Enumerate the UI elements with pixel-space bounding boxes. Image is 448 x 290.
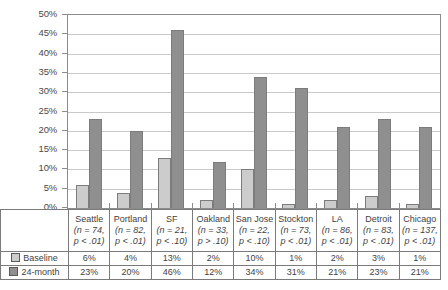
- table-cell-24month: 23%: [358, 266, 399, 280]
- bar-group: [68, 15, 109, 208]
- city-name: SF: [152, 214, 192, 225]
- y-axis-tick-label: 30%: [39, 86, 57, 96]
- table-header-cell: LA(n = 86,p < .01): [316, 210, 357, 252]
- data-table: Seattle(n = 74,p < .01)Portland(n = 82,p…: [0, 209, 441, 280]
- bar-group: [399, 15, 440, 208]
- y-axis-tick-label: 10%: [39, 163, 57, 173]
- bar-group: [192, 15, 233, 208]
- city-name: Seattle: [69, 214, 109, 225]
- bar-24-month: [89, 119, 102, 208]
- table-cell-baseline: 2%: [316, 252, 357, 266]
- legend-swatch-baseline: [11, 253, 20, 262]
- bar-baseline: [76, 185, 89, 208]
- table-header-cell: Seattle(n = 74,p < .01): [69, 210, 110, 252]
- legend-cell-24month: 24-month: [1, 266, 69, 280]
- table-header-cell: Stockton(n = 73,p < .01): [275, 210, 316, 252]
- table-corner-blank: [1, 210, 69, 252]
- legend-cell-baseline: Baseline: [1, 252, 69, 266]
- p-value: p < .10): [234, 236, 274, 247]
- bar-24-month: [213, 162, 226, 208]
- p-value: p < .01): [276, 236, 316, 247]
- city-name: Detroit: [358, 214, 398, 225]
- y-axis-tick-label: 20%: [39, 125, 57, 135]
- bar-group: [275, 15, 316, 208]
- sample-size: (n = 73,: [276, 225, 316, 236]
- table-cell-baseline: 4%: [110, 252, 151, 266]
- table-cell-24month: 23%: [69, 266, 110, 280]
- y-axis-tick-label: 15%: [39, 144, 57, 154]
- bar-group: [316, 15, 357, 208]
- bar-baseline: [158, 158, 171, 208]
- y-axis-tick-label: 45%: [39, 28, 57, 38]
- legend-label: Baseline: [23, 253, 58, 263]
- table-cell-24month: 34%: [234, 266, 275, 280]
- table-header-cell: Oakland(n = 33,p > .10): [192, 210, 233, 252]
- bar-24-month: [295, 88, 308, 208]
- table-cell-24month: 21%: [316, 266, 357, 280]
- city-name: Stockton: [276, 214, 316, 225]
- city-name: Oakland: [193, 214, 233, 225]
- table-cell-baseline: 10%: [234, 252, 275, 266]
- sample-size: (n = 137,: [400, 225, 440, 236]
- bar-24-month: [254, 77, 267, 208]
- bar-group: [109, 15, 150, 208]
- bar-groups: [68, 15, 440, 208]
- table-row-baseline: Baseline6%4%13%2%10%1%2%3%1%: [1, 252, 441, 266]
- bar-baseline: [324, 200, 337, 208]
- legend-label: 24-month: [21, 267, 59, 277]
- table-cell-baseline: 3%: [358, 252, 399, 266]
- p-value: p < .01): [69, 236, 109, 247]
- legend-swatch-month24: [9, 267, 18, 276]
- table-cell-24month: 31%: [275, 266, 316, 280]
- city-name: Portland: [110, 214, 150, 225]
- table-cell-24month: 46%: [151, 266, 192, 280]
- bar-24-month: [130, 131, 143, 208]
- city-name: San Jose: [234, 214, 274, 225]
- table-cell-baseline: 13%: [151, 252, 192, 266]
- sample-size: (n = 21,: [152, 225, 192, 236]
- table-cell-baseline: 2%: [192, 252, 233, 266]
- city-name: LA: [317, 214, 357, 225]
- table-header-cell: Chicago(n = 137,p < .01): [399, 210, 440, 252]
- table-cell-baseline: 1%: [275, 252, 316, 266]
- bar-group: [357, 15, 398, 208]
- bar-chart-figure: 50%45%40%35%30%25%20%15%10%5%0% Seattle(…: [0, 0, 448, 290]
- bar-baseline: [282, 204, 295, 208]
- y-axis-tick-label: 40%: [39, 48, 57, 58]
- bar-baseline: [200, 200, 213, 208]
- p-value: p < .01): [317, 236, 357, 247]
- p-value: p < .01): [110, 236, 150, 247]
- bar-group: [233, 15, 274, 208]
- bar-baseline: [241, 169, 254, 208]
- bar-24-month: [337, 127, 350, 208]
- table-cell-baseline: 1%: [399, 252, 440, 266]
- sample-size: (n = 74,: [69, 225, 109, 236]
- p-value: p < .10): [152, 236, 192, 247]
- p-value: p > .10): [193, 236, 233, 247]
- sample-size: (n = 82,: [110, 225, 150, 236]
- bar-baseline: [117, 193, 130, 208]
- table-header-cell: Detroit(n = 83,p < .01): [358, 210, 399, 252]
- y-axis-tick-label: 25%: [39, 106, 57, 116]
- table-row-24month: 24-month23%20%46%12%34%31%21%23%21%: [1, 266, 441, 280]
- table-cell-24month: 21%: [399, 266, 440, 280]
- bar-baseline: [365, 196, 378, 208]
- table-row-header: Seattle(n = 74,p < .01)Portland(n = 82,p…: [1, 210, 441, 252]
- bar-baseline: [406, 204, 419, 208]
- table-header-cell: SF(n = 21,p < .10): [151, 210, 192, 252]
- city-name: Chicago: [400, 214, 440, 225]
- y-axis-tick-label: 35%: [39, 67, 57, 77]
- y-axis: 50%45%40%35%30%25%20%15%10%5%0%: [0, 0, 67, 215]
- sample-size: (n = 86,: [317, 225, 357, 236]
- y-axis-tick-label: 5%: [44, 183, 57, 193]
- sample-size: (n = 22,: [234, 225, 274, 236]
- bar-24-month: [419, 127, 432, 208]
- p-value: p < .01): [358, 236, 398, 247]
- bar-group: [151, 15, 192, 208]
- p-value: p < .01): [400, 236, 440, 247]
- plot-area: [67, 14, 441, 209]
- table-header-cell: San Jose(n = 22,p < .10): [234, 210, 275, 252]
- bar-24-month: [171, 30, 184, 208]
- bar-24-month: [378, 119, 391, 208]
- sample-size: (n = 33,: [193, 225, 233, 236]
